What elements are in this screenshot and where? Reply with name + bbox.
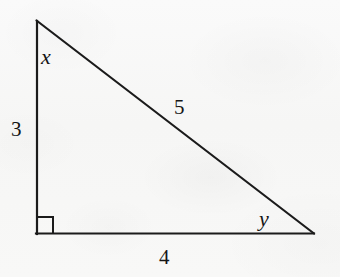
geometry-figure: x 3 5 y 4: [0, 0, 340, 277]
right-triangle-drawing: [0, 0, 340, 277]
angle-label-x: x: [41, 46, 51, 68]
side-label-horizontal-leg: 4: [159, 247, 170, 268]
angle-label-y: y: [259, 208, 269, 230]
side-label-hypotenuse: 5: [174, 97, 185, 118]
right-angle-marker-icon: [37, 217, 53, 233]
side-label-vertical-leg: 3: [11, 119, 22, 140]
hypotenuse-line: [37, 21, 315, 234]
